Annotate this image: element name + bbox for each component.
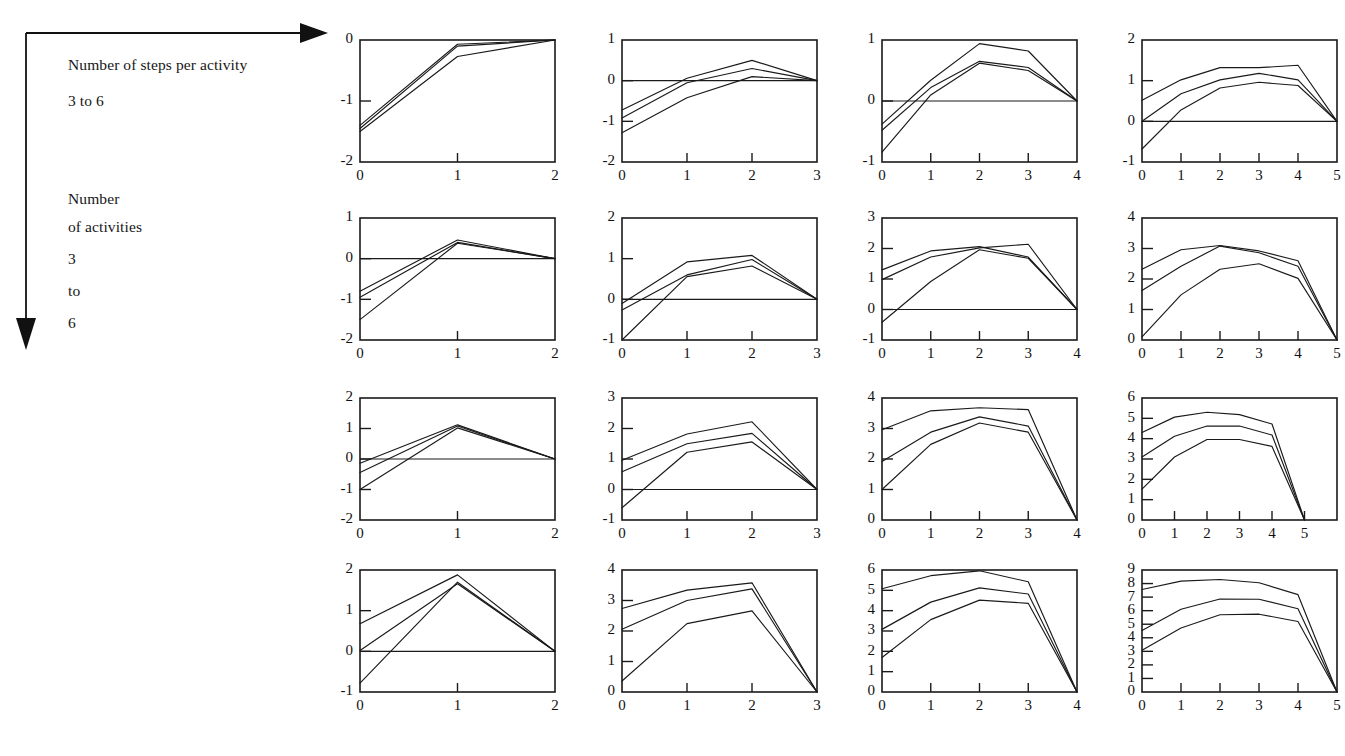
x-tick-label: 5 <box>1301 525 1309 541</box>
activities-axis-caption-line3: 3 <box>68 250 76 268</box>
series-line <box>622 77 817 133</box>
chart-grid: -2-10012-2-1010123-10101234-1012012345-2… <box>318 26 1338 756</box>
y-tick-label: 1 <box>608 30 616 46</box>
plot-frame <box>622 40 817 162</box>
x-tick-label: 0 <box>1138 525 1146 541</box>
axes-annotation: Number of steps per activity 3 to 6 Numb… <box>0 0 340 370</box>
y-tick-label: 0 <box>346 249 354 265</box>
y-tick-label: 5 <box>868 581 876 597</box>
y-tick-label: 1 <box>1128 490 1136 506</box>
plot-area: -10101234 <box>840 26 1089 188</box>
y-tick-label: -1 <box>341 480 354 496</box>
x-tick-label: 2 <box>976 167 984 183</box>
series-line <box>1142 65 1337 121</box>
x-tick-label: 1 <box>1177 345 1185 361</box>
y-tick-label: 1 <box>1128 71 1136 87</box>
panel-r1c3: -10101234 <box>840 26 1089 188</box>
x-tick-label: 4 <box>1073 345 1081 361</box>
x-tick-label: 1 <box>683 167 691 183</box>
x-tick-label: 1 <box>454 525 462 541</box>
x-tick-label: 1 <box>927 345 935 361</box>
y-tick-label: 1 <box>868 30 876 46</box>
series-line <box>360 425 555 463</box>
series-line <box>360 582 555 683</box>
x-tick-label: 4 <box>1294 697 1302 713</box>
plot-area: -2-10012 <box>318 26 567 188</box>
plot-area: -2-1012012 <box>318 384 567 546</box>
y-tick-label: 0 <box>608 480 616 496</box>
series-line <box>1142 73 1337 121</box>
panel-r3c2: -101230123 <box>580 384 829 546</box>
x-tick-label: 5 <box>1333 345 1341 361</box>
x-tick-label: 4 <box>1073 697 1081 713</box>
x-tick-label: 4 <box>1073 525 1081 541</box>
x-tick-label: 3 <box>1255 697 1263 713</box>
activities-axis-caption-line4: to <box>68 282 80 300</box>
panel-r2c4: 01234012345 <box>1100 204 1345 366</box>
y-tick-label: -1 <box>603 330 616 346</box>
y-tick-label: -2 <box>341 152 354 168</box>
series-line <box>360 242 555 297</box>
y-tick-label: -1 <box>1123 152 1136 168</box>
plot-area: 01234012345 <box>1100 204 1345 366</box>
x-tick-label: 0 <box>618 167 626 183</box>
activities-axis-caption-line5: 6 <box>68 314 76 332</box>
series-line <box>1142 439 1305 520</box>
plot-area: -2-1010123 <box>580 26 829 188</box>
x-tick-label: 2 <box>1216 697 1224 713</box>
series-line <box>622 611 817 692</box>
y-tick-label: -2 <box>341 330 354 346</box>
y-tick-label: 3 <box>868 621 876 637</box>
y-tick-label: 1 <box>608 249 616 265</box>
x-tick-label: 1 <box>683 345 691 361</box>
x-tick-label: 0 <box>1138 167 1146 183</box>
x-tick-label: 2 <box>551 167 559 183</box>
panel-r2c2: -10120123 <box>580 204 829 366</box>
x-tick-label: 0 <box>1138 345 1146 361</box>
series-line <box>360 40 555 132</box>
y-tick-label: 1 <box>868 269 876 285</box>
y-tick-label: -1 <box>341 91 354 107</box>
y-tick-label: -2 <box>341 510 354 526</box>
x-tick-label: 0 <box>618 525 626 541</box>
y-tick-label: 2 <box>868 642 876 658</box>
panel-r4c2: 012340123 <box>580 556 829 718</box>
x-tick-label: 3 <box>1255 345 1263 361</box>
y-tick-label: 2 <box>868 449 876 465</box>
y-tick-label: 0 <box>868 300 876 316</box>
x-tick-label: 1 <box>1177 167 1185 183</box>
plot-area: -2-101012 <box>318 204 567 366</box>
series-line <box>622 266 817 340</box>
x-tick-label: 3 <box>813 167 821 183</box>
panel-r4c3: 012345601234 <box>840 556 1089 718</box>
y-tick-label: 0 <box>346 30 354 46</box>
series-line <box>622 422 817 490</box>
x-tick-label: 0 <box>878 697 886 713</box>
activities-axis-caption-line2: of activities <box>68 218 142 236</box>
series-line <box>1142 264 1337 340</box>
y-tick-label: 5 <box>1128 409 1136 425</box>
y-tick-label: 0 <box>868 682 876 698</box>
y-tick-label: 4 <box>868 388 876 404</box>
panel-r3c4: 0123456012345 <box>1100 384 1345 546</box>
plot-area: 0123456789012345 <box>1100 556 1345 718</box>
x-tick-label: 1 <box>683 697 691 713</box>
y-tick-label: 0 <box>1128 112 1136 128</box>
x-tick-label: 3 <box>1025 345 1033 361</box>
y-tick-label: -1 <box>341 290 354 306</box>
series-line <box>360 575 555 651</box>
x-tick-label: 2 <box>1216 345 1224 361</box>
y-tick-label: 3 <box>868 419 876 435</box>
panel-r3c1: -2-1012012 <box>318 384 567 546</box>
x-tick-label: 3 <box>1236 525 1244 541</box>
x-tick-label: 4 <box>1294 345 1302 361</box>
x-tick-label: 3 <box>813 525 821 541</box>
x-tick-label: 2 <box>551 345 559 361</box>
y-tick-label: 4 <box>1128 208 1136 224</box>
steps-axis-caption-line2: 3 to 6 <box>68 92 104 110</box>
plot-area: -1012301234 <box>840 204 1089 366</box>
y-tick-label: 1 <box>346 208 354 224</box>
x-tick-label: 0 <box>878 525 886 541</box>
plot-area: -101230123 <box>580 384 829 546</box>
y-tick-label: 0 <box>868 510 876 526</box>
